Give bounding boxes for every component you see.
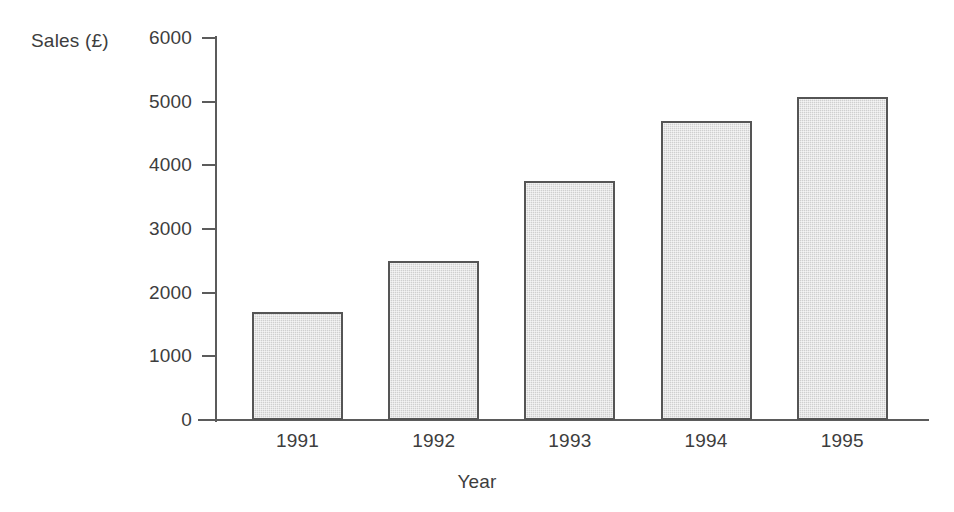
y-axis-tick — [202, 164, 216, 166]
bar-1993[interactable] — [524, 181, 615, 420]
y-axis-tick — [202, 355, 216, 357]
x-axis-tick-label: 1993 — [504, 430, 635, 452]
y-axis-tick — [202, 419, 216, 421]
y-axis-tick — [202, 37, 216, 39]
y-axis-tick-label: 4000 — [132, 154, 192, 176]
y-axis-tick-label: 0 — [132, 409, 192, 431]
y-axis-tick — [202, 292, 216, 294]
y-axis-tick-label: 2000 — [132, 282, 192, 304]
y-axis-tick — [202, 101, 216, 103]
y-axis-tick — [202, 228, 216, 230]
x-axis-tick-label: 1991 — [232, 430, 363, 452]
bar-chart-figure: Sales (£) 6000500040003000200010000 1991… — [0, 0, 954, 512]
y-axis-tick-label: 6000 — [132, 27, 192, 49]
y-axis-tick-label: 3000 — [132, 218, 192, 240]
bar-1994[interactable] — [661, 121, 752, 420]
bar-1991[interactable] — [252, 312, 343, 420]
bar-1995[interactable] — [797, 97, 888, 420]
x-axis-tick-label: 1992 — [368, 430, 499, 452]
y-axis-tick-label: 1000 — [132, 345, 192, 367]
y-axis-tick-label: 5000 — [132, 91, 192, 113]
x-axis-title: Year — [0, 471, 954, 493]
bar-1992[interactable] — [388, 261, 479, 420]
y-axis-title: Sales (£) — [31, 30, 109, 52]
x-axis-tick-label: 1994 — [641, 430, 772, 452]
x-axis-tick-label: 1995 — [777, 430, 908, 452]
